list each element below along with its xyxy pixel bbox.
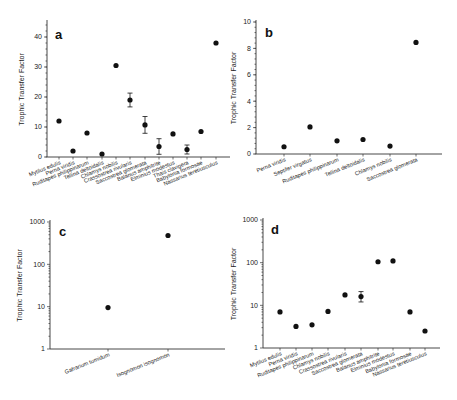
data-point	[293, 324, 298, 329]
y-tick-label: 10	[243, 18, 251, 25]
data-point	[99, 151, 104, 156]
figure-canvas: 010203040Trophic Transfer FactoraMytilus…	[0, 0, 457, 400]
y-axis-label: Trophic Transfer Factor	[18, 53, 26, 126]
y-tick-label: 100	[33, 261, 45, 268]
y-axis-label: Trophic Transfer Factor	[16, 249, 24, 322]
y-tick-label: 1000	[29, 218, 45, 225]
data-point	[156, 144, 161, 149]
x-category-label: Isognomon isognomon	[116, 351, 171, 378]
y-tick-label: 6	[247, 71, 251, 78]
y-axis-label: Trophic Transfer Factor	[230, 247, 238, 320]
data-point	[213, 40, 218, 45]
data-point	[358, 294, 363, 299]
y-tick-label: 10	[34, 123, 42, 130]
data-point	[281, 144, 286, 149]
data-point	[127, 97, 132, 102]
y-tick-label: 0	[38, 153, 42, 160]
y-tick-label: 40	[34, 33, 42, 40]
data-point	[277, 309, 282, 314]
panel-c: 1101001000Trophic Transfer FactorcGafrar…	[16, 218, 225, 378]
x-category-label: Gafrarium tumidum	[64, 351, 111, 375]
data-point	[334, 138, 339, 143]
data-point	[422, 328, 427, 333]
data-point	[413, 40, 418, 45]
data-point	[198, 129, 203, 134]
panel-letter: a	[55, 27, 63, 42]
panel-a: 010203040Trophic Transfer FactoraMytilus…	[18, 20, 230, 187]
panel-letter: b	[265, 25, 273, 40]
y-tick-label: 100	[246, 259, 258, 266]
panel-b: 0246810Trophic Transfer FactorbPerna vir…	[230, 18, 442, 184]
data-point	[407, 309, 412, 314]
data-point	[170, 131, 175, 136]
data-point	[70, 148, 75, 153]
data-point	[360, 137, 365, 142]
panel-letter: d	[271, 222, 279, 237]
y-tick-label: 8	[247, 45, 251, 52]
panel-d: 1101001000Trophic Transfer FactordMytilu…	[230, 216, 440, 378]
data-point	[113, 63, 118, 68]
data-point	[390, 258, 395, 263]
data-point	[84, 130, 89, 135]
data-point	[56, 118, 61, 123]
y-tick-label: 4	[247, 98, 251, 105]
data-point	[387, 143, 392, 148]
data-point	[165, 233, 170, 238]
y-tick-label: 10	[37, 303, 45, 310]
y-tick-label: 1000	[242, 216, 258, 223]
panel-letter: c	[59, 224, 66, 239]
data-point	[184, 147, 189, 152]
y-tick-label: 2	[247, 124, 251, 131]
data-point	[309, 322, 314, 327]
y-tick-label: 30	[34, 63, 42, 70]
data-point	[325, 309, 330, 314]
data-point	[375, 259, 380, 264]
data-point	[307, 124, 312, 129]
data-point	[142, 122, 147, 127]
figure: 010203040Trophic Transfer FactoraMytilus…	[0, 0, 457, 400]
y-axis-label: Trophic Transfer Factor	[230, 51, 238, 124]
y-tick-label: 1	[254, 344, 258, 351]
y-tick-label: 10	[250, 302, 258, 309]
data-point	[105, 305, 110, 310]
data-point	[342, 292, 347, 297]
y-tick-label: 20	[34, 93, 42, 100]
y-tick-label: 1	[41, 345, 45, 352]
y-tick-label: 0	[247, 150, 251, 157]
